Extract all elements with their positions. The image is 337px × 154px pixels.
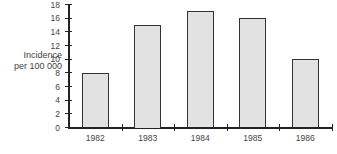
y-tick-label: 6 <box>42 82 60 92</box>
y-tick <box>65 4 72 5</box>
y-tick-label: 8 <box>42 68 60 78</box>
x-tick-label: 1982 <box>75 133 115 143</box>
x-tick <box>174 124 175 131</box>
bar-1985 <box>239 18 266 127</box>
y-tick <box>65 72 72 73</box>
y-tick <box>65 86 72 87</box>
y-tick <box>65 59 72 60</box>
x-tick-label: 1986 <box>285 133 325 143</box>
y-tick <box>65 100 72 101</box>
x-tick <box>227 124 228 131</box>
bar-1983 <box>134 25 161 128</box>
y-tick <box>65 45 72 46</box>
bar-1982 <box>82 73 109 128</box>
x-tick <box>332 124 333 131</box>
y-tick-label: 10 <box>42 54 60 64</box>
y-tick-label: 0 <box>42 123 60 133</box>
y-tick-label: 2 <box>42 109 60 119</box>
y-tick-label: 18 <box>42 0 60 10</box>
y-tick-label: 12 <box>42 41 60 51</box>
y-tick-label: 4 <box>42 95 60 105</box>
x-tick-label: 1985 <box>233 133 273 143</box>
bar-1986 <box>292 59 319 127</box>
x-tick-label: 1984 <box>180 133 220 143</box>
y-tick <box>65 113 72 114</box>
x-tick-label: 1983 <box>128 133 168 143</box>
x-tick <box>279 124 280 131</box>
y-tick <box>65 31 72 32</box>
bar-1984 <box>187 11 214 127</box>
y-tick <box>65 127 72 128</box>
x-tick <box>122 124 123 131</box>
y-tick-label: 14 <box>42 27 60 37</box>
y-axis <box>68 4 70 128</box>
y-tick <box>65 18 72 19</box>
y-tick-label: 16 <box>42 13 60 23</box>
